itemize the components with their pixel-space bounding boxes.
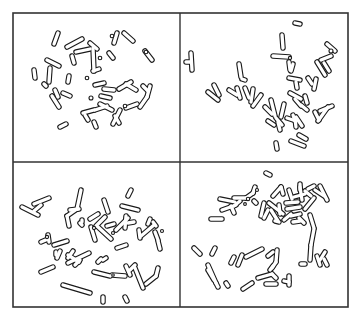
chromosome-outline xyxy=(67,216,69,226)
chromosome-fragment-dot xyxy=(89,96,93,100)
chromosome-outline xyxy=(98,259,101,262)
chromosome-fragment-dot xyxy=(246,197,249,200)
chromosome-fragment-dot xyxy=(244,203,247,206)
chromosome-outline xyxy=(95,83,104,85)
chromosome-outline xyxy=(125,216,126,228)
chromosome-outline xyxy=(104,89,114,90)
chromosome-outline xyxy=(226,283,228,286)
chromosome-fragment-dot xyxy=(329,49,333,53)
chromosome-outline xyxy=(216,283,218,287)
chromosome-outline xyxy=(279,205,280,214)
chromosome-outline xyxy=(281,187,283,194)
chromosome-outline xyxy=(94,122,96,127)
chromosome-outline xyxy=(287,207,300,209)
chromosome-fragment-dot xyxy=(112,274,115,277)
chromosome-outline xyxy=(72,56,74,63)
chromosome-spread-figure xyxy=(0,0,359,321)
chromosome-outline xyxy=(310,245,311,260)
chromosome-outline xyxy=(242,79,245,80)
chromosome-fragment-dot xyxy=(98,56,102,60)
chromosome-outline xyxy=(275,221,279,222)
chromosome-outline xyxy=(68,76,69,82)
chromosome-outline xyxy=(282,35,283,48)
chromosome-outline xyxy=(314,79,316,89)
chromosome-outline xyxy=(101,96,110,98)
chromosome-outline xyxy=(278,122,280,130)
chromosome-outline xyxy=(295,23,300,24)
chromosome-outline xyxy=(93,48,94,71)
chromosome-fragment-dot xyxy=(85,76,89,80)
chromosome-fragment-dot xyxy=(256,189,259,192)
chromosome-fragment-dot xyxy=(110,34,114,38)
chromosome-outline xyxy=(70,209,79,210)
chromosome-outline xyxy=(305,96,307,103)
chromosome-fragment-dot xyxy=(288,56,291,59)
chromosome-outline xyxy=(148,219,150,224)
chromosome-outline xyxy=(103,258,106,260)
chromosome-fragment-dot xyxy=(144,50,148,54)
chromosome-outline xyxy=(253,187,255,193)
chromosome-outline xyxy=(291,64,293,71)
chromosome-outline xyxy=(273,56,289,57)
chromosome-outline xyxy=(156,268,158,276)
chromosome-outline xyxy=(107,224,114,226)
chromosome-outline xyxy=(296,82,297,88)
chromosome-outline xyxy=(266,173,270,175)
chromosome-outline xyxy=(295,118,296,127)
chromosome-outline xyxy=(158,241,160,249)
chromosome-outline xyxy=(34,70,35,78)
chromosome-outline xyxy=(293,221,300,222)
chromosome-outline xyxy=(251,89,253,102)
chromosome-outline xyxy=(125,297,127,301)
chromosome-outline xyxy=(291,214,300,216)
chromosome-fragment-dot xyxy=(92,226,95,229)
chromosome-outline xyxy=(289,78,300,80)
chromosome-outline xyxy=(289,62,290,70)
chromosome-outline xyxy=(276,250,277,262)
chromosome-outline xyxy=(254,201,256,203)
chromosome-outline xyxy=(93,69,99,71)
chromosome-fragment-dot xyxy=(112,232,115,235)
chromosome-outline xyxy=(44,84,46,86)
chromosome-outline xyxy=(128,222,134,223)
chromosome-outline xyxy=(49,68,50,82)
chromosome-fragment-dot xyxy=(45,235,48,238)
chromosome-outline xyxy=(276,143,277,149)
chromosome-fragment-dot xyxy=(123,104,127,108)
chromosome-outline xyxy=(286,202,298,203)
chromosome-outline xyxy=(239,64,241,77)
chromosome-fragment-dot xyxy=(161,230,164,233)
